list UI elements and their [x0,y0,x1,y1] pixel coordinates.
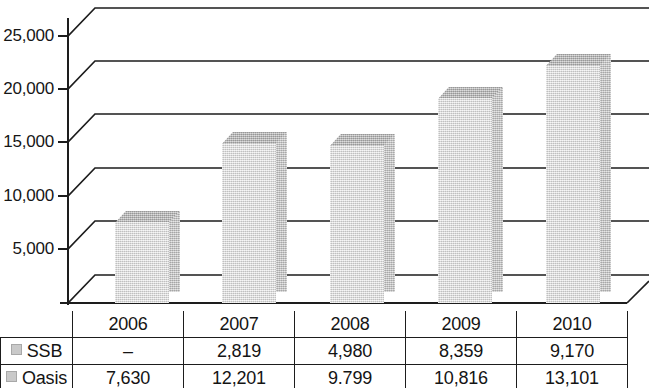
bar-2010-side-face [600,54,611,292]
table-row-oasis: Oasis 7,630 12,201 9.799 10,816 13,101 [1,365,649,388]
table-row-ssb: SSB – 2,819 4,980 8,359 9,170 [1,338,649,365]
category-cell-2007: 2007 [184,311,295,338]
chart-container: 25,000 20,000 15,000 10,000 5,000 [0,0,649,388]
bar-2010 [0,0,649,312]
legend-swatch-ssb [11,344,22,355]
plot-area: 25,000 20,000 15,000 10,000 5,000 [0,0,649,312]
ssb-row-endspace [628,338,649,365]
legend-label-ssb: SSB [27,341,62,361]
category-cell-2008: 2008 [295,311,406,338]
cell-oasis-2008: 9.799 [295,365,406,388]
cell-ssb-2010: 9,170 [517,338,628,365]
category-cell-2009: 2009 [406,311,517,338]
cell-oasis-2007: 12,201 [184,365,295,388]
cell-ssb-2006: – [73,338,184,365]
cell-oasis-2010: 13,101 [517,365,628,388]
legend-label-oasis: Oasis [22,368,67,388]
cell-ssb-2007: 2,819 [184,338,295,365]
data-table: 2006 2007 2008 2009 2010 SSB – 2,819 4,9… [0,311,649,388]
legend-swatch-oasis [6,371,17,382]
oasis-row-endspace [628,365,649,388]
table-row-categories: 2006 2007 2008 2009 2010 [1,311,649,338]
bar-2010-front-face [546,65,600,303]
cell-oasis-2009: 10,816 [406,365,517,388]
cell-oasis-2006: 7,630 [73,365,184,388]
legend-item-oasis: Oasis [1,365,73,388]
category-cell-2010: 2010 [517,311,628,338]
category-cell-2006: 2006 [73,311,184,338]
category-row-endspace [628,311,649,338]
cell-ssb-2009: 8,359 [406,338,517,365]
category-row-corner [1,311,73,338]
legend-item-ssb: SSB [1,338,73,365]
cell-ssb-2008: 4,980 [295,338,406,365]
